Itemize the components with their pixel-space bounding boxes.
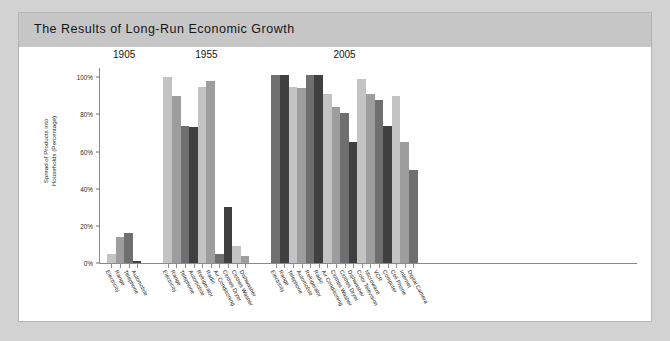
chart-bar [215, 254, 224, 263]
x-axis-tick-mark [370, 264, 371, 268]
x-axis-tick-mark [194, 264, 195, 268]
x-axis-tick-mark [336, 264, 337, 268]
x-axis-tick-mark [168, 264, 169, 268]
bars-layer: ElectricityRangeTelephoneAutomobile1905E… [19, 47, 651, 321]
chart-bar [357, 79, 366, 263]
x-axis-tick-mark [396, 264, 397, 268]
x-axis-tick-mark [176, 264, 177, 268]
chart-bar [124, 233, 133, 263]
x-axis-tick-mark [219, 264, 220, 268]
chart-bar [224, 207, 233, 263]
x-axis-tick-mark [245, 264, 246, 268]
chart-bar [289, 87, 298, 263]
chart-group-title: 1905 [113, 49, 135, 60]
page-title: The Results of Long-Run Economic Growth [34, 22, 295, 36]
x-axis-tick-mark [302, 264, 303, 268]
x-axis-tick-mark [345, 264, 346, 268]
chart-bar [107, 254, 116, 263]
x-axis-tick-mark [284, 264, 285, 268]
x-axis-tick-mark [120, 264, 121, 268]
x-axis-tick-mark [276, 264, 277, 268]
chart-bar [116, 237, 125, 263]
x-axis-tick-mark [228, 264, 229, 268]
chart-bar [271, 75, 280, 263]
chart-bar [323, 94, 332, 263]
chart-bar [306, 75, 315, 263]
chart-bar [133, 261, 142, 263]
x-axis-tick-mark [405, 264, 406, 268]
x-axis-tick-mark [111, 264, 112, 268]
chart-bar [232, 246, 241, 263]
x-axis-tick-mark [353, 264, 354, 268]
chart-group-title: 2005 [333, 49, 355, 60]
x-axis-tick-mark [137, 264, 138, 268]
chart-bar [206, 81, 215, 263]
chart-bar [280, 75, 289, 263]
card-header: The Results of Long-Run Economic Growth [19, 13, 651, 47]
x-axis-tick-mark [211, 264, 212, 268]
x-axis-tick-mark [202, 264, 203, 268]
chart-bar [349, 142, 358, 263]
chart-bar [181, 126, 190, 263]
x-axis-tick-mark [327, 264, 328, 268]
chart-bar [366, 94, 375, 263]
chart-bar [340, 113, 349, 263]
x-axis-tick-mark [388, 264, 389, 268]
chart-bar [314, 75, 323, 263]
x-axis-tick-mark [185, 264, 186, 268]
chart-bar [189, 127, 198, 263]
page-background: The Results of Long-Run Economic Growth … [0, 0, 670, 341]
x-axis-tick-mark [362, 264, 363, 268]
chart-group-title: 1955 [195, 49, 217, 60]
x-axis-tick-mark [237, 264, 238, 268]
x-axis-tick-mark [319, 264, 320, 268]
chart-bar [241, 256, 250, 263]
chart-plot-area: Spread of Products into Households (Perc… [19, 47, 651, 321]
x-axis-tick-mark [413, 264, 414, 268]
chart-card: The Results of Long-Run Economic Growth … [18, 12, 652, 322]
x-axis-tick-mark [129, 264, 130, 268]
chart-bar [375, 100, 384, 263]
x-axis-tick-mark [293, 264, 294, 268]
chart-bar [409, 170, 418, 263]
chart-bar [172, 96, 181, 263]
chart-bar [297, 88, 306, 263]
chart-bar [198, 87, 207, 263]
chart-bar [332, 107, 341, 263]
chart-bar [392, 96, 401, 263]
chart-bar [400, 142, 409, 263]
chart-bar [163, 77, 172, 263]
chart-bar [383, 126, 392, 263]
x-axis-tick-mark [310, 264, 311, 268]
x-axis-tick-mark [379, 264, 380, 268]
